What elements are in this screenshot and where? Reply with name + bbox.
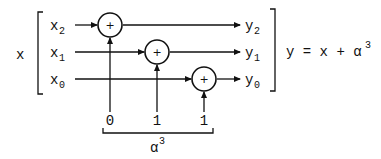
constant-bit-1: 1 — [153, 113, 161, 129]
svg-text:x: x — [50, 72, 58, 88]
svg-text:x: x — [50, 45, 58, 61]
xor-adder-diagram: x x 2 x 1 x 0 + + + y 2 y 1 — [0, 0, 381, 159]
svg-text:α: α — [150, 140, 158, 156]
output-y1: y 1 — [245, 45, 260, 64]
svg-text:y = x + α: y = x + α — [286, 44, 362, 60]
input-vector-label: x — [16, 47, 24, 63]
svg-text:2: 2 — [254, 26, 260, 37]
svg-text:y: y — [245, 18, 253, 34]
plus-icon: + — [152, 46, 161, 59]
output-y0: y 0 — [245, 72, 260, 91]
svg-text:y: y — [245, 45, 253, 61]
svg-text:0: 0 — [254, 80, 260, 91]
input-left-bracket — [38, 12, 43, 94]
svg-text:3: 3 — [365, 40, 371, 51]
svg-text:2: 2 — [59, 26, 65, 37]
adder-0: + — [192, 67, 216, 91]
output-y2: y 2 — [245, 18, 260, 37]
adder-1: + — [145, 40, 169, 64]
equation: y = x + α 3 — [286, 40, 371, 60]
svg-text:0: 0 — [59, 80, 65, 91]
input-x2: x 2 — [50, 18, 65, 37]
svg-text:1: 1 — [254, 53, 260, 64]
svg-text:y: y — [245, 72, 253, 88]
input-x1: x 1 — [50, 45, 65, 64]
input-x0: x 0 — [50, 72, 65, 91]
constant-label: α 3 — [150, 136, 165, 156]
svg-text:3: 3 — [159, 136, 165, 147]
plus-icon: + — [105, 19, 114, 32]
svg-text:1: 1 — [59, 53, 65, 64]
svg-text:x: x — [50, 18, 58, 34]
plus-icon: + — [199, 73, 208, 86]
output-right-bracket — [270, 9, 275, 91]
adder-2: + — [98, 13, 122, 37]
constant-bit-2: 0 — [106, 113, 114, 129]
constant-bit-0: 1 — [200, 113, 208, 129]
